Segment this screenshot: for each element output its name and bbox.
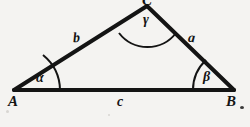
angle-label-gamma: γ — [143, 13, 149, 27]
angle-label-beta: β — [203, 70, 210, 84]
triangle-figure: A B C a b c α β γ — [0, 0, 250, 127]
side-a-line — [147, 6, 234, 90]
vertex-label-c: C — [142, 0, 152, 8]
vertex-label-b: B — [226, 94, 236, 109]
angle-label-alpha: α — [36, 71, 44, 85]
triangle-drawing-canvas — [0, 0, 250, 127]
angle-arc-gamma — [119, 33, 176, 47]
side-label-a: a — [187, 31, 195, 46]
vertex-label-a: A — [8, 94, 18, 109]
side-b-line — [14, 6, 147, 90]
side-label-c: c — [117, 95, 123, 109]
side-label-b: b — [73, 31, 81, 45]
